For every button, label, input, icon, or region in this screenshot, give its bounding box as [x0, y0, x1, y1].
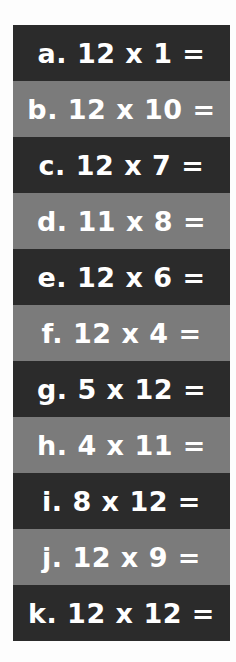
problem-row: f. 12 x 4 =: [13, 305, 230, 361]
problem-row: h. 4 x 11 =: [13, 417, 230, 473]
problem-text: a. 12 x 1 =: [38, 38, 206, 69]
problem-row: a. 12 x 1 =: [13, 25, 230, 81]
problem-text: j. 12 x 9 =: [42, 542, 201, 573]
problem-row: b. 12 x 10 =: [13, 81, 230, 137]
problem-text: k. 12 x 12 =: [28, 598, 215, 629]
problem-text: c. 12 x 7 =: [39, 150, 205, 181]
problem-row: g. 5 x 12 =: [13, 361, 230, 417]
problem-row: k. 12 x 12 =: [13, 585, 230, 641]
problem-row: i. 8 x 12 =: [13, 473, 230, 529]
problem-row: d. 11 x 8 =: [13, 193, 230, 249]
problem-text: g. 5 x 12 =: [37, 374, 206, 405]
problem-text: h. 4 x 11 =: [37, 430, 206, 461]
problem-row: e. 12 x 6 =: [13, 249, 230, 305]
problem-row: c. 12 x 7 =: [13, 137, 230, 193]
multiplication-worksheet: a. 12 x 1 = b. 12 x 10 = c. 12 x 7 = d. …: [13, 25, 230, 641]
problem-text: b. 12 x 10 =: [27, 94, 215, 125]
problem-row: j. 12 x 9 =: [13, 529, 230, 585]
problem-text: d. 11 x 8 =: [37, 206, 206, 237]
problem-text: f. 12 x 4 =: [41, 318, 201, 349]
problem-text: e. 12 x 6 =: [37, 262, 205, 293]
problem-text: i. 8 x 12 =: [42, 486, 201, 517]
